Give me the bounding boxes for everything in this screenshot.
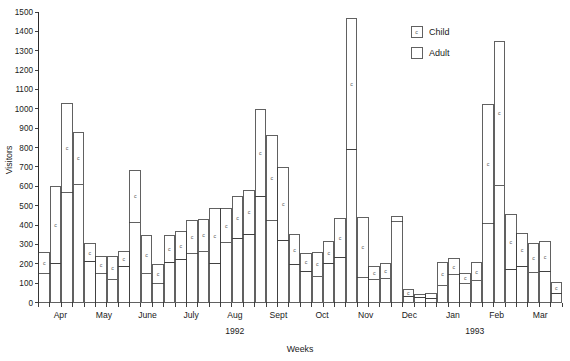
- bar-child-marker: c: [157, 271, 160, 277]
- y-axis-tick-labels: 0100200300400500600700800900100011001200…: [15, 8, 34, 308]
- y-tick-label: 300: [19, 240, 33, 249]
- bar-segment-child: [278, 241, 289, 303]
- x-month-label: Aug: [227, 310, 243, 320]
- y-axis-title: Visitors: [4, 145, 14, 174]
- y-tick-label: 200: [19, 260, 33, 269]
- y-tick-label: 1200: [15, 66, 34, 75]
- y-tick-label: 600: [19, 182, 33, 191]
- bar-segment-child: [540, 272, 551, 303]
- bar-segment-child: [471, 280, 482, 302]
- x-year-label: 1992: [225, 326, 244, 336]
- bar-segment-child: [369, 279, 380, 302]
- bar-segment-child: [119, 267, 130, 303]
- bar-segment-child: [358, 277, 369, 302]
- bar-segment-child: [312, 276, 323, 302]
- y-tick-label: 1000: [15, 105, 34, 114]
- bar-segment-child: [164, 263, 175, 303]
- chart-svg: 0100200300400500600700800900100011001200…: [0, 0, 570, 361]
- x-month-label: Dec: [402, 310, 418, 320]
- x-month-label: Oct: [315, 310, 329, 320]
- x-month-label: Nov: [358, 310, 374, 320]
- bar-segment-child: [437, 285, 448, 302]
- bar-child-marker: c: [191, 234, 194, 240]
- x-month-label: May: [96, 310, 113, 320]
- bar-child-marker: c: [145, 252, 148, 258]
- y-tick-label: 400: [19, 221, 33, 230]
- bar-segment-child: [392, 221, 403, 302]
- bar-segment-child: [96, 273, 107, 302]
- bar-segment-child: [449, 274, 460, 302]
- legend-label-adult: Adult: [429, 48, 450, 58]
- bar-child-marker: c: [475, 269, 478, 275]
- bar-segment-child: [426, 299, 437, 303]
- x-month-label: Apr: [54, 310, 68, 320]
- y-tick-label: 500: [19, 202, 33, 211]
- bar-child-marker: c: [293, 247, 296, 253]
- bar-segment-child: [130, 222, 141, 302]
- bar-segment-child: [301, 272, 312, 303]
- bar-segment-child: [210, 264, 221, 303]
- bar-segment-child: [505, 270, 516, 303]
- bar-segment-child: [50, 264, 61, 303]
- bar-segment-child: [403, 297, 414, 303]
- x-month-label: July: [184, 310, 200, 320]
- bar-segment-child: [460, 283, 471, 302]
- bar-segment-adult: [426, 294, 437, 299]
- y-tick-label: 1100: [15, 85, 33, 94]
- bar-segment-adult: [392, 216, 403, 221]
- x-year-label: 1993: [465, 326, 484, 336]
- bar-child-marker: c: [407, 290, 410, 296]
- bar-segment-adult: [414, 295, 425, 298]
- bar-child-marker: c: [43, 260, 46, 266]
- x-axis-week-ticks: [39, 303, 563, 307]
- bar-child-marker: c: [555, 285, 558, 291]
- bar-segment-child: [414, 298, 425, 303]
- bar-segment-child: [141, 273, 152, 302]
- bar-child-marker: c: [271, 175, 274, 181]
- bar-segment-child: [73, 184, 84, 302]
- y-axis-ticks: [35, 12, 39, 303]
- visitors-bar-chart: 0100200300400500600700800900100011001200…: [0, 0, 570, 361]
- bar-child-marker: c: [509, 239, 512, 245]
- x-axis-month-labels: AprMayJuneJulyAugSeptOctNovDecJanFebMar: [54, 310, 548, 320]
- bar-child-marker: c: [66, 145, 69, 151]
- bar-child-marker: c: [179, 243, 182, 249]
- bar-child-marker: c: [316, 261, 319, 267]
- bar-segment-child: [289, 265, 300, 303]
- bar-child-marker: c: [88, 250, 91, 256]
- y-tick-label: 900: [19, 124, 33, 133]
- bar-segment-child: [483, 223, 494, 302]
- bar-segment-child: [39, 273, 50, 302]
- bar-child-marker: c: [441, 271, 444, 277]
- bar-segment-child: [255, 197, 266, 303]
- bar-child-marker: c: [123, 256, 126, 262]
- bar-segment-child: [346, 150, 357, 303]
- bar-segment-child: [335, 258, 346, 303]
- bar-segment-child: [528, 272, 539, 302]
- legend-swatch-adult: [411, 47, 422, 58]
- bar-child-marker: c: [339, 235, 342, 241]
- bar-segment-child: [187, 253, 198, 302]
- bar-segment-child: [267, 220, 278, 302]
- bar-child-marker: c: [384, 268, 387, 274]
- bar-child-marker: c: [350, 81, 353, 87]
- bar-child-marker: c: [453, 264, 456, 270]
- x-month-label: Mar: [533, 310, 548, 320]
- bar-segment-child: [517, 267, 528, 303]
- bar-segment-child: [323, 264, 334, 303]
- x-month-label: Feb: [489, 310, 504, 320]
- y-tick-label: 1500: [15, 8, 34, 17]
- bar-segment-child: [107, 279, 118, 302]
- y-tick-label: 800: [19, 144, 33, 153]
- bar-segment-child: [175, 260, 186, 303]
- y-tick-label: 700: [19, 163, 33, 172]
- bar-child-marker: c: [225, 223, 228, 229]
- y-tick-label: 0: [28, 299, 33, 308]
- bar-child-marker: c: [236, 215, 239, 221]
- bar-child-marker: c: [168, 246, 171, 252]
- bar-child-marker: c: [54, 222, 57, 228]
- legend-label-child: Child: [429, 27, 450, 37]
- bar-group: cccccccccccccccccccccccccccccccccccccccc…: [39, 19, 562, 303]
- legend: c Child Adult: [411, 26, 450, 58]
- bar-child-marker: c: [327, 250, 330, 256]
